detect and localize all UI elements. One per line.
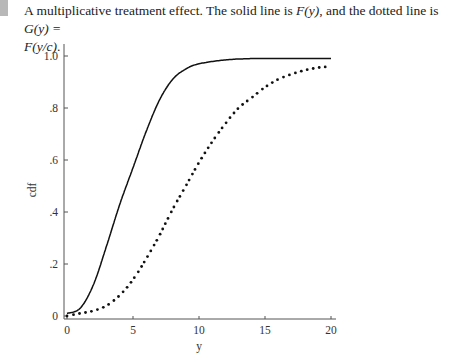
y-tick-label: .4 xyxy=(49,206,58,218)
data-dot xyxy=(176,200,179,203)
data-dot xyxy=(256,92,259,95)
y-axis-label: cdf xyxy=(26,182,38,197)
data-dot xyxy=(217,131,220,134)
data-dot xyxy=(200,157,203,160)
data-dot xyxy=(173,206,176,209)
data-dot xyxy=(149,250,152,253)
data-dot xyxy=(140,265,143,268)
data-dot xyxy=(90,310,93,313)
data-dot xyxy=(155,239,158,242)
data-dot xyxy=(237,107,240,110)
data-dot xyxy=(84,311,87,314)
x-tick-label: 10 xyxy=(193,324,205,336)
series-dotted-g-of-y xyxy=(66,66,327,318)
data-dot xyxy=(204,152,207,155)
data-dot xyxy=(78,312,81,315)
data-dot xyxy=(306,68,309,71)
data-dot xyxy=(130,281,133,284)
data-dot xyxy=(213,137,216,140)
y-tick-label: 0 xyxy=(52,310,58,322)
series-solid-f-of-y xyxy=(67,59,331,314)
data-dot xyxy=(300,70,303,73)
data-dot xyxy=(197,162,200,165)
data-dot xyxy=(324,66,327,69)
data-dot xyxy=(113,299,116,302)
data-dot xyxy=(102,306,105,309)
data-dot xyxy=(288,74,291,77)
data-dot xyxy=(246,100,249,103)
data-dot xyxy=(294,72,297,75)
data-dot xyxy=(133,276,136,279)
data-dot xyxy=(72,313,75,316)
data-dot xyxy=(188,179,191,182)
data-dot xyxy=(194,168,197,171)
data-dot xyxy=(225,121,228,124)
y-tick-label: .6 xyxy=(49,154,58,166)
data-dot xyxy=(221,127,224,130)
data-dot xyxy=(229,116,232,119)
data-dot xyxy=(164,222,167,225)
data-dot xyxy=(137,270,140,273)
x-axis-label: y xyxy=(196,340,202,353)
data-dot xyxy=(143,261,146,264)
data-dot xyxy=(282,76,285,79)
x-tick-label: 15 xyxy=(259,324,271,336)
cdf-chart: 0.2.4.6.81.005101520ycdf xyxy=(0,0,456,356)
data-dot xyxy=(159,233,162,236)
data-dot xyxy=(191,173,194,176)
data-dot xyxy=(96,308,99,311)
data-dot xyxy=(266,85,269,88)
data-dot xyxy=(153,244,156,247)
data-dot xyxy=(312,67,315,70)
data-dot xyxy=(261,88,264,91)
data-dot xyxy=(318,66,321,69)
data-dot xyxy=(126,286,129,289)
y-tick-label: .2 xyxy=(49,258,58,270)
data-dot xyxy=(122,290,125,293)
data-dot xyxy=(233,112,236,115)
y-tick-label: 1.0 xyxy=(44,50,59,62)
data-dot xyxy=(210,141,213,144)
data-dot xyxy=(117,295,120,298)
data-dot xyxy=(170,211,173,214)
data-dot xyxy=(167,217,170,220)
y-tick-label: .8 xyxy=(49,102,58,114)
data-dot xyxy=(182,189,185,192)
x-tick-label: 5 xyxy=(130,324,136,336)
data-dot xyxy=(185,183,188,186)
data-dot xyxy=(107,303,110,306)
data-dot xyxy=(161,228,164,231)
data-dot xyxy=(251,96,254,99)
data-dot xyxy=(146,255,149,258)
data-dot xyxy=(241,103,244,106)
data-dot xyxy=(271,81,274,84)
x-tick-label: 20 xyxy=(325,324,337,336)
data-dot xyxy=(207,146,210,149)
data-dot xyxy=(66,315,69,318)
x-tick-label: 0 xyxy=(64,324,70,336)
data-dot xyxy=(276,78,279,81)
data-dot xyxy=(179,195,182,198)
